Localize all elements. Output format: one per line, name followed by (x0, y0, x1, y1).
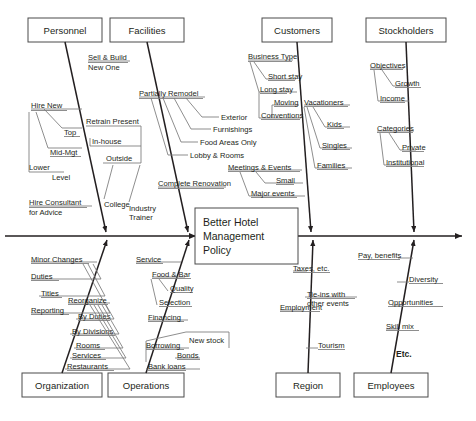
cause-institutional: Institutional (386, 158, 425, 167)
fishbone-diagram: Better Hotel Management Policy Personnel… (0, 0, 476, 421)
cause-families: Families (317, 161, 345, 170)
twig-borrowing-up (146, 332, 186, 341)
employees-label: Employees (368, 380, 415, 391)
cause-mid-mgt: Mid-Mgt (50, 148, 78, 157)
cause-etc: Etc. (396, 349, 412, 359)
cause-trainer: Trainer (129, 213, 153, 222)
cause-borrowing: Borrowing (146, 341, 180, 350)
cause-moving: Moving (274, 98, 298, 107)
category-box-operations[interactable]: Operations (108, 373, 184, 397)
core-effect-line-1: Better Hotel (203, 216, 258, 228)
category-box-region[interactable]: Region (276, 373, 340, 397)
category-box-stockholders[interactable]: Stockholders (366, 18, 446, 42)
cause-singles: Singles (322, 141, 347, 150)
twig-exterior (186, 98, 202, 117)
cause-reorganize: Reorganize (68, 296, 107, 305)
twig-mid-mgt (36, 112, 48, 148)
cause-tourism: Tourism (318, 341, 345, 350)
twig-top (44, 109, 62, 128)
core-effect-line-3: Policy (203, 244, 232, 256)
branch-organization: Minor Changes Duties Titles Reporting Re… (31, 255, 130, 371)
cause-vacationers: Vacationers (304, 98, 344, 107)
cause-reporting: Reporting (31, 306, 64, 315)
customers-label: Customers (274, 25, 320, 36)
cause-sell-build: Sell & Build (88, 53, 127, 62)
category-box-organization[interactable]: Organization (22, 373, 102, 397)
cause-furnishings: Furnishings (213, 125, 252, 134)
cause-taxes-etc: Taxes, etc. (293, 264, 329, 273)
cause-categories: Categories (377, 124, 414, 133)
cause-restaurants: Restaurants (67, 362, 108, 371)
cause-income: Income (380, 94, 405, 103)
rib-stockholders (406, 42, 414, 232)
cause-selection: Selection (159, 298, 190, 307)
cause-duties: Duties (31, 272, 53, 281)
cause-diversity: Diversity (409, 275, 438, 284)
cause-bonds: Bonds (177, 351, 199, 360)
cause-major-events: Major events (251, 189, 295, 198)
cause-industry: Industry (129, 204, 156, 213)
twig-institutional (380, 133, 384, 165)
facilities-label: Facilities (129, 25, 166, 36)
cause-by-divisions: By Divisions (72, 327, 114, 336)
category-box-customers[interactable]: Customers (262, 18, 332, 42)
fishbone-canvas: Better Hotel Management Policy Personnel… (0, 0, 476, 421)
cause-kids: Kids (327, 120, 342, 129)
core-effect-box[interactable]: Better Hotel Management Policy (195, 208, 298, 264)
twig-growth (382, 70, 393, 86)
branch-stockholders: Objectives Growth Income Categories Priv… (370, 61, 426, 167)
branch-employees: Pay, benefits Diversity Opportunities Sk… (358, 251, 443, 359)
cause-college: College (104, 200, 130, 209)
organization-label: Organization (35, 380, 89, 391)
cause-private: Private (402, 143, 426, 152)
cause-rooms: Rooms (76, 341, 100, 350)
cause-conventions: Conventions (261, 111, 303, 120)
twig-quality (159, 279, 168, 291)
cause-growth: Growth (395, 79, 419, 88)
branch-personnel: Hire New Top Mid-Mgt Lower Level Hire Co… (29, 101, 92, 217)
cause-partially-remodel: Partially Remodel (139, 89, 199, 98)
twig-short-stay (254, 62, 266, 79)
cause-complete-renovation: Complete Renovation (158, 179, 231, 188)
rib-customers (297, 42, 311, 232)
cause-bank-loans: Bank loans (148, 362, 186, 371)
stockholders-label: Stockholders (379, 25, 434, 36)
cause-meetings-events: Meetings & Events (228, 163, 292, 172)
region-label: Region (293, 380, 323, 391)
branch-operations: Service Food & Bar Quality Selection Fin… (136, 255, 229, 371)
cause-for-advice: for Advice (29, 208, 62, 217)
cause-opportunities: Opportunities (388, 298, 433, 307)
cause-short-stay: Short stay (268, 72, 302, 81)
cause-food-bar: Food & Bar (152, 270, 191, 279)
twig-industry (129, 165, 140, 202)
twig-small (256, 172, 265, 183)
cause-lower: Lower (29, 163, 50, 172)
personnel-label: Personnel (44, 25, 87, 36)
cause-service: Service (136, 255, 161, 264)
category-box-personnel[interactable]: Personnel (28, 18, 102, 42)
cause-retrain-present: Retrain Present (86, 117, 140, 126)
twig-college (104, 165, 113, 199)
cause-hire-new: Hire New (31, 101, 63, 110)
cause-tieins-1: Tie-ins with (307, 290, 345, 299)
twig-furnishings (174, 98, 191, 129)
cause-titles: Titles (41, 289, 59, 298)
cause-in-house: In-house (92, 137, 122, 146)
cause-exterior: Exterior (221, 113, 248, 122)
cause-pay-benefits: Pay, benefits (358, 251, 402, 260)
category-box-employees[interactable]: Employees (354, 373, 428, 397)
branch-region: Taxes, etc. Tie-ins with other events Em… (280, 264, 357, 350)
cause-business-type: Business Type (248, 52, 297, 61)
cause-new-one: New One (88, 63, 120, 72)
operations-label: Operations (123, 380, 170, 391)
cause-by-duties: By Duties (78, 312, 111, 321)
twig-food-areas (163, 98, 181, 142)
cause-minor-changes: Minor Changes (31, 255, 83, 264)
twig-private (389, 133, 400, 150)
cause-top: Top (64, 128, 76, 137)
twig-kids (313, 107, 325, 127)
cause-food-areas-only: Food Areas Only (200, 138, 257, 147)
cause-long-stay: Long stay (260, 85, 293, 94)
cause-outside: Outside (106, 154, 132, 163)
category-box-facilities[interactable]: Facilities (110, 18, 184, 42)
